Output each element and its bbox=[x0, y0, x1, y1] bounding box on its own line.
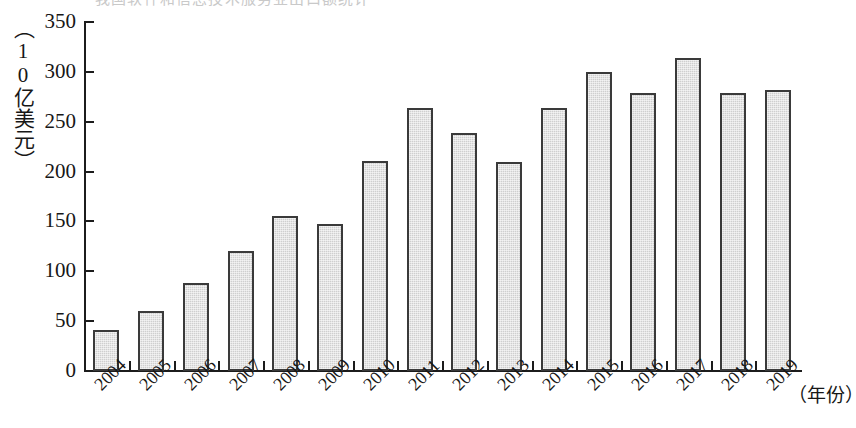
bar-2007 bbox=[228, 251, 254, 371]
y-axis-tick-label: 300 bbox=[18, 61, 76, 82]
y-axis-tick bbox=[86, 320, 94, 322]
bar-2008 bbox=[272, 216, 298, 371]
y-axis-tick bbox=[86, 171, 94, 173]
bar-2015 bbox=[586, 72, 612, 371]
y-axis-tick bbox=[86, 220, 94, 222]
y-axis-tick-label: 250 bbox=[18, 111, 76, 132]
bar-2019 bbox=[765, 90, 791, 371]
y-axis-tick bbox=[86, 21, 94, 23]
bar-2012 bbox=[451, 133, 477, 371]
bar-2017 bbox=[675, 58, 701, 371]
y-axis-tick-label: 100 bbox=[18, 260, 76, 281]
y-axis-tick-label: 150 bbox=[18, 210, 76, 231]
y-axis-tick bbox=[86, 121, 94, 123]
bar-2009 bbox=[317, 224, 343, 371]
y-axis-tick bbox=[86, 270, 94, 272]
bar-2011 bbox=[407, 108, 433, 371]
bar-2018 bbox=[720, 93, 746, 371]
bar-2010 bbox=[362, 161, 388, 371]
y-axis-tick-label: 350 bbox=[18, 11, 76, 32]
y-axis-tick-label: 200 bbox=[18, 161, 76, 182]
x-axis-unit-label: （年份） bbox=[788, 386, 856, 405]
y-axis-tick-label: 50 bbox=[18, 310, 76, 331]
y-axis-unit-label: （10亿美元） bbox=[8, 18, 34, 171]
bar-2013 bbox=[496, 162, 522, 371]
y-axis-tick-label: 0 bbox=[18, 360, 76, 381]
bar-2014 bbox=[541, 108, 567, 371]
y-axis-tick bbox=[86, 71, 94, 73]
bar-2016 bbox=[630, 93, 656, 371]
